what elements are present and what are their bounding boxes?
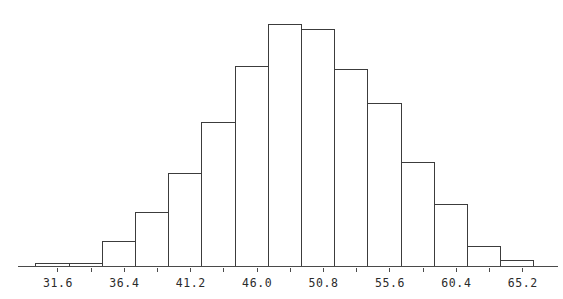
histogram-bar [268,24,301,266]
histogram-bar [235,67,268,267]
x-axis [18,267,558,272]
histogram-bar [501,261,534,267]
x-tick-label: 55.6 [375,276,405,290]
histogram-bar [401,162,434,266]
histogram-bar [135,213,168,267]
histogram-bar [102,241,135,266]
x-tick-label: 36.4 [109,276,139,290]
x-tick-label: 50.8 [309,276,339,290]
histogram-chart: 31.636.441.246.050.855.660.465.2 [0,0,563,299]
bars-group [36,24,534,266]
x-tick-label: 41.2 [176,276,206,290]
x-tick-label: 60.4 [441,276,471,290]
x-tick-label: 65.2 [508,276,538,290]
histogram-bar [335,69,368,266]
histogram-bar [169,174,202,267]
histogram-bar [434,205,467,267]
plot-area [0,0,563,299]
histogram-bar [301,30,334,267]
x-tick-label: 31.6 [43,276,73,290]
histogram-bar [467,247,500,267]
histogram-bar [368,103,401,266]
x-tick-label: 46.0 [242,276,272,290]
histogram-bar [202,123,235,267]
